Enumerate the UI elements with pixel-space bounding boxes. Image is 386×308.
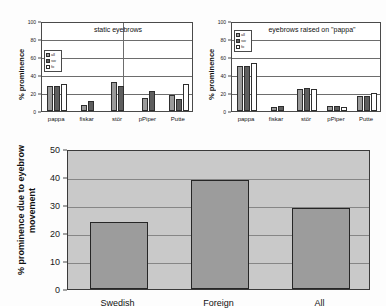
chart2-legend-row-fo: fo [236,44,250,50]
bar-group [352,23,381,111]
bar [176,99,182,111]
bar [271,107,277,111]
bar [54,86,60,111]
legend-swatch-icon-sw [46,59,50,63]
chart1-bars [42,23,192,111]
chart2-ytick-60: 60 [214,56,226,61]
bar [341,107,347,112]
bar [334,106,340,111]
x-axis-tick-label: pPiper [327,116,344,123]
chart-eyebrow-movement: % prominence due to eyebrow movement 50 … [0,136,386,306]
chart2-ytick-20: 20 [214,92,226,97]
chart2-ytick-0: 0 [214,110,226,115]
bar [47,86,53,111]
chart3-ytick-10: 10 [44,258,60,267]
bar [191,180,249,289]
bar [142,98,148,112]
bar [81,105,87,111]
bar-group [68,151,169,289]
legend-swatch-icon-all [46,53,50,57]
chart1-ytick-100: 100 [24,20,36,25]
bar [278,106,284,111]
bar [251,63,257,111]
bar [244,66,250,111]
chart3-ytick-50: 50 [44,146,60,155]
chart3-ytick-0: 0 [44,286,60,295]
x-axis-tick-label: fiskar [269,116,283,123]
chart2-ytick-40: 40 [214,74,226,79]
chart2-legend: all sw fo [234,30,252,52]
chart1-legend-label-sw: sw [51,59,56,63]
bar [237,66,243,111]
bar-group [262,23,292,111]
chart2-legend-label-sw: sw [241,39,246,43]
bar [61,84,67,111]
bar [149,91,155,111]
chart-eyebrows-raised: % prominence 100 80 60 40 20 0 eyebrows … [190,12,386,134]
legend-swatch-icon-all [236,33,240,37]
chart3-ytick-30: 30 [44,202,60,211]
bar-group [72,23,102,111]
bar [183,84,189,111]
bar-group [164,23,193,111]
bar [304,88,310,111]
bar [88,101,94,111]
bar [357,96,363,111]
chart1-legend: all sw fo [44,50,62,72]
x-axis-tick-label: pPiper [139,116,156,123]
chart3-bars [68,151,369,289]
x-axis-tick-label: Foreign [203,298,234,308]
chart1-ytick-20: 20 [24,92,36,97]
chart1-ytick-60: 60 [24,56,36,61]
bar [169,95,175,111]
bar [118,86,124,111]
x-axis-tick-label: stör [112,116,122,123]
x-axis-tick-label: stör [301,116,311,123]
chart1-ytick-80: 80 [24,38,36,43]
x-axis-tick-label: pappa [238,116,255,123]
chart3-y-axis-title: % prominence due to eyebrow movement [16,144,40,276]
chart2-plot-area [231,22,381,112]
bar [111,82,117,111]
legend-swatch-icon-sw [236,39,240,43]
bar [364,96,370,111]
bar [371,93,377,111]
bar-group [292,23,322,111]
x-axis-tick-label: Putte [171,116,185,123]
chart1-legend-label-all: all [51,53,55,57]
chart1-ytick-0: 0 [24,110,36,115]
chart3-ytick-40: 40 [44,174,60,183]
x-axis-tick-label: fiskar [79,116,93,123]
bar-group [103,23,133,111]
x-axis-tick-label: pappa [48,116,65,123]
bar [90,222,148,289]
bar [311,89,317,111]
chart-static-eyebrows: % prominence 100 80 60 40 20 0 static ey… [0,12,196,134]
bar [292,208,350,289]
bar [297,89,303,112]
bar-group [169,151,270,289]
legend-swatch-icon-fo [46,65,50,69]
chart2-ytick-80: 80 [214,38,226,43]
chart1-ytick-40: 40 [24,74,36,79]
chart2-ytick-100: 100 [214,20,226,25]
chart1-legend-label-fo: fo [51,65,54,69]
bar-group [133,23,163,111]
x-axis-tick-label: Swedish [100,298,134,308]
chart3-plot-area [67,150,370,290]
chart2-bars [232,23,380,111]
chart1-plot-area [41,22,193,112]
bar-group [270,151,370,289]
bar-group [322,23,352,111]
chart1-legend-row-fo: fo [46,64,60,70]
legend-swatch-icon-fo [236,45,240,49]
chart2-title: eyebrows raised on "pappa" [252,26,372,33]
chart1-title: static eyebrows [75,26,161,33]
chart2-legend-label-all: all [241,33,245,37]
chart3-ytick-20: 20 [44,230,60,239]
x-axis-tick-label: All [314,298,324,308]
chart2-legend-label-fo: fo [241,45,244,49]
bar [327,106,333,111]
x-axis-tick-label: Putte [359,116,373,123]
